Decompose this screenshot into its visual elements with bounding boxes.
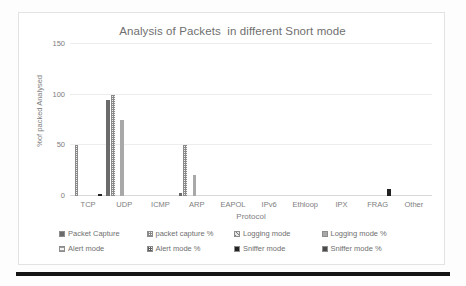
chart-frame: Analysis of Packets in different Snort m… [18, 12, 445, 265]
bar [183, 145, 187, 196]
legend-item[interactable]: Alert mode % [147, 244, 235, 253]
bar [120, 120, 124, 196]
legend-label: Alert mode % [156, 244, 201, 253]
x-axis-tick-label: IPX [335, 200, 347, 209]
x-axis-tick-label: IPv6 [262, 200, 277, 209]
chart-page: Analysis of Packets in different Snort m… [0, 0, 466, 286]
chart-title: Analysis of Packets in different Snort m… [19, 25, 446, 37]
category-group: IPv6 [251, 44, 287, 196]
plot-area: 050100150TCPUDPICMPARPEAPOLIPv6EthloopIP… [70, 44, 432, 196]
legend-item[interactable]: Sniffer mode [234, 244, 322, 253]
bar [111, 95, 115, 196]
legend-item[interactable]: packet capture % [147, 229, 235, 238]
bar [98, 194, 102, 196]
x-axis-tick-label: UDP [116, 200, 132, 209]
bottom-divider-rule [16, 272, 450, 276]
category-group: Other [396, 44, 432, 196]
legend-swatch-icon [147, 246, 153, 252]
x-axis-tick-label: Other [405, 200, 424, 209]
category-group: ARP [179, 44, 215, 196]
category-group: ICMP [142, 44, 178, 196]
x-axis-tick-label: TCP [81, 200, 96, 209]
category-group: TCP [70, 44, 106, 196]
legend-label: Sniffer mode % [331, 244, 382, 253]
y-axis-tick-label: 0 [61, 191, 65, 200]
y-axis-tick-label: 150 [52, 39, 65, 48]
bar [75, 145, 79, 196]
legend-swatch-icon [234, 246, 240, 252]
legend-label: Logging mode % [331, 229, 387, 238]
x-axis-tick-label: ICMP [151, 200, 170, 209]
category-group: FRAG [360, 44, 396, 196]
y-axis-title: %of packed Analysed [35, 75, 44, 147]
category-group: EAPOL [215, 44, 251, 196]
legend-label: Logging mode [243, 229, 291, 238]
legend-item[interactable]: Logging mode [234, 229, 322, 238]
x-axis-tick-label: EAPOL [220, 200, 245, 209]
legend-swatch-icon [322, 231, 328, 237]
legend-row: Packet Capturepacket capture %Logging mo… [59, 226, 409, 241]
y-axis-tick-label: 100 [52, 89, 65, 98]
category-group: IPX [323, 44, 359, 196]
legend-label: Sniffer mode [243, 244, 285, 253]
x-axis-title: Protocol [70, 212, 432, 221]
x-axis-tick-label: Ethloop [293, 200, 318, 209]
legend-item[interactable]: Packet Capture [59, 229, 147, 238]
legend-swatch-icon [147, 231, 153, 237]
bar [179, 193, 183, 196]
legend-swatch-icon [234, 231, 240, 237]
bar [387, 189, 391, 196]
legend-swatch-icon [59, 231, 65, 237]
category-group: UDP [106, 44, 142, 196]
category-group: Ethloop [287, 44, 323, 196]
legend-label: Alert mode [68, 244, 104, 253]
legend-swatch-icon [59, 246, 65, 252]
y-axis-tick-label: 50 [57, 140, 65, 149]
legend-item[interactable]: Alert mode [59, 244, 147, 253]
x-axis-tick-label: ARP [189, 200, 204, 209]
legend-row: Alert modeAlert mode %Sniffer modeSniffe… [59, 241, 409, 256]
chart-legend: Packet Capturepacket capture %Logging mo… [59, 226, 409, 256]
legend-item[interactable]: Logging mode % [322, 229, 410, 238]
legend-item[interactable]: Sniffer mode % [322, 244, 410, 253]
x-axis-tick-label: FRAG [367, 200, 388, 209]
legend-label: packet capture % [156, 229, 214, 238]
bar [106, 100, 110, 196]
bar [193, 175, 197, 196]
legend-swatch-icon [322, 246, 328, 252]
legend-label: Packet Capture [68, 229, 120, 238]
